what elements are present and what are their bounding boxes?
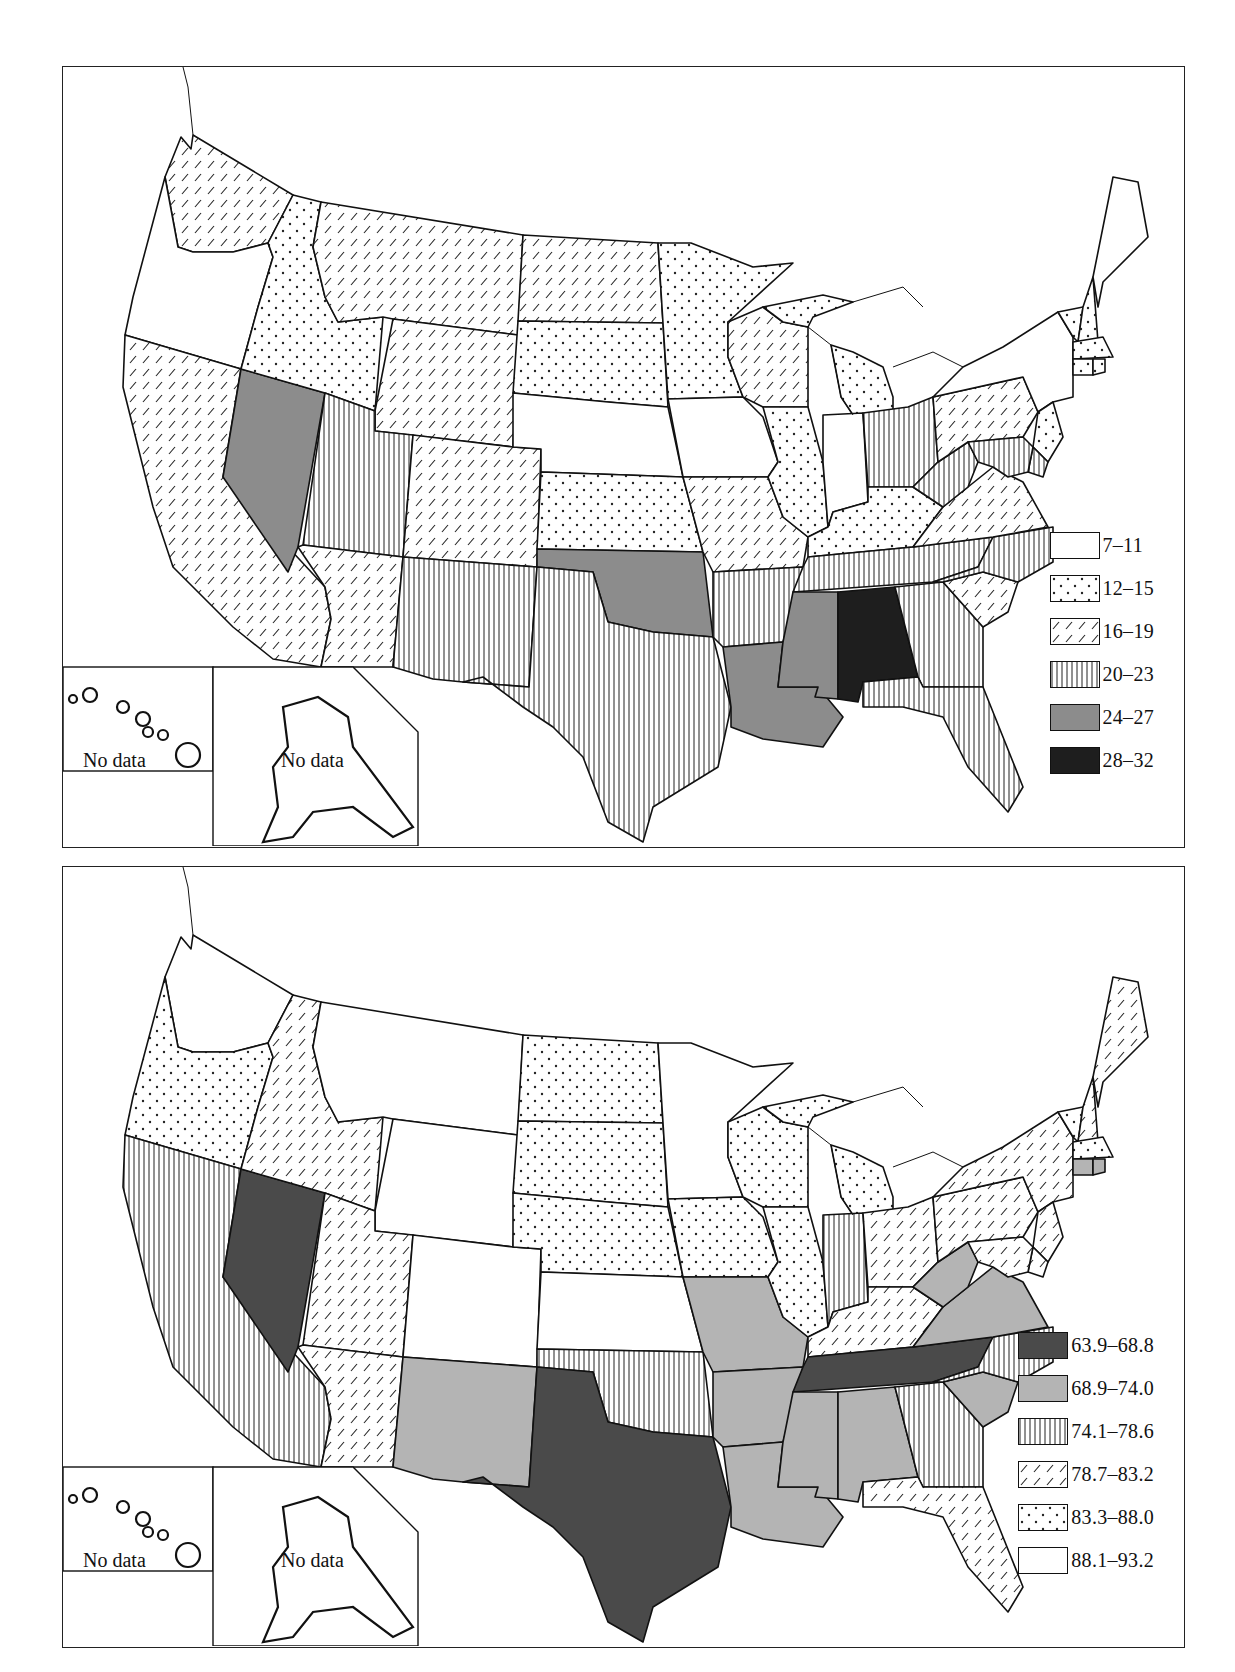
legend-item: 12–15 [1050,575,1155,601]
state-ct [1073,1159,1093,1175]
legend-swatch-dots [1050,575,1100,602]
alaska-inset: No data [213,667,418,846]
legend-item: 74.1–78.6 [1018,1418,1154,1444]
legend-swatch-gray [1050,704,1100,731]
hawaii-inset: No data [63,1467,213,1571]
legend-swatch-diag [1018,1461,1068,1488]
state-ri [1093,359,1105,375]
legend-label: 12–15 [1103,575,1155,601]
us-map-1: No dataNo data [63,67,1183,846]
alaska-no-data-label: No data [281,1549,344,1571]
legend-label: 68.9–74.0 [1071,1375,1154,1401]
legend-label: 24–27 [1103,704,1155,730]
state-nd [518,235,663,323]
legend-swatch-diag [1050,618,1100,645]
legend-swatch-black [1050,747,1100,774]
legend-label: 7–11 [1103,532,1143,558]
legend-item: 68.9–74.0 [1018,1375,1154,1401]
state-ri [1093,1159,1105,1175]
state-ma [1073,1137,1113,1159]
map-panel-1: No dataNo data 7–1112–1516–1920–2324–272… [62,66,1185,848]
state-ia [668,1197,778,1277]
hawaii-no-data-label: No data [83,749,146,771]
state-me [1093,177,1148,307]
state-sd [513,1121,668,1207]
canada-border-line [183,867,193,935]
legend-item: 28–32 [1050,747,1155,773]
legend-label: 83.3–88.0 [1071,1504,1154,1530]
state-me [1093,977,1148,1107]
state-ma [1073,337,1113,359]
legend-swatch-white [1050,532,1100,559]
legend-label: 28–32 [1103,747,1155,773]
state-nd [518,1035,663,1123]
state-fl [863,677,1023,812]
legend-label: 63.9–68.8 [1071,1332,1154,1358]
legend-label: 74.1–78.6 [1071,1418,1154,1444]
legend-label: 20–23 [1103,661,1155,687]
state-mt [313,202,523,335]
legend-swatch-white [1018,1547,1068,1574]
legend-label: 78.7–83.2 [1071,1461,1154,1487]
state-wy [375,1119,518,1247]
legend-item: 78.7–83.2 [1018,1461,1154,1487]
state-co [403,435,541,567]
legend-item: 7–11 [1050,532,1155,558]
us-map-2: No dataNo data [63,867,1183,1646]
state-nm [393,557,537,687]
legend-2: 63.9–68.868.9–74.074.1–78.678.7–83.283.3… [1018,1332,1154,1573]
state-nm [393,1357,537,1487]
state-ia [668,397,778,477]
legend-label: 88.1–93.2 [1071,1547,1154,1573]
state-co [403,1235,541,1367]
alaska-inset: No data [213,1467,418,1646]
state-ks [537,1272,703,1352]
legend-item: 24–27 [1050,704,1155,730]
legend-swatch-vert [1018,1418,1068,1445]
legend-swatch-vert [1050,661,1100,688]
map-panel-2: No dataNo data 63.9–68.868.9–74.074.1–78… [62,866,1185,1648]
legend-item: 83.3–88.0 [1018,1504,1154,1530]
state-fl [863,1477,1023,1612]
state-md [968,437,1033,477]
state-wy [375,319,518,447]
alaska-no-data-label: No data [281,749,344,771]
legend-item: 20–23 [1050,661,1155,687]
state-md [968,1237,1033,1277]
legend-1: 7–1112–1516–1920–2324–2728–32 [1050,532,1155,773]
state-ks [537,472,703,552]
state-ct [1073,359,1093,375]
legend-item: 16–19 [1050,618,1155,644]
state-sd [513,321,668,407]
legend-swatch-dots [1018,1504,1068,1531]
legend-item: 88.1–93.2 [1018,1547,1154,1573]
hawaii-inset: No data [63,667,213,771]
legend-swatch-dark [1018,1332,1068,1359]
canada-border-line [183,67,193,135]
hawaii-no-data-label: No data [83,1549,146,1571]
legend-label: 16–19 [1103,618,1155,644]
legend-item: 63.9–68.8 [1018,1332,1154,1358]
legend-swatch-light [1018,1375,1068,1402]
state-mt [313,1002,523,1135]
